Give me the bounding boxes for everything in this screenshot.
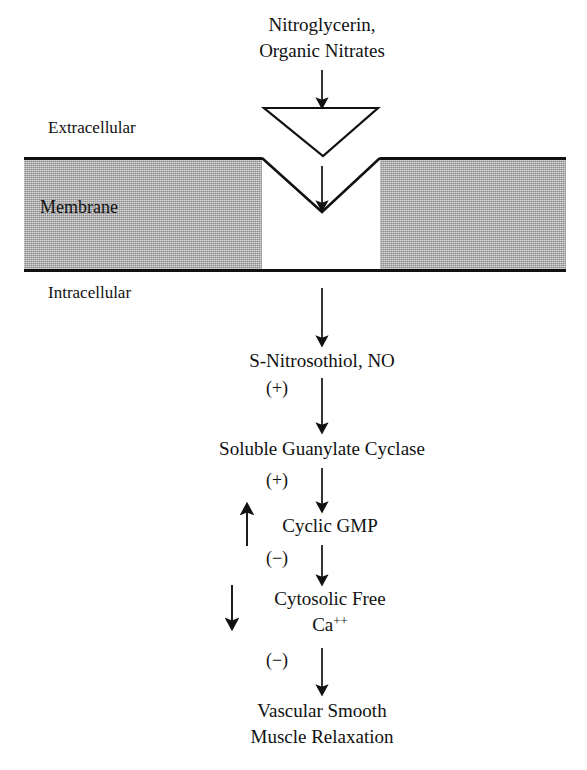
- sign-minus-1: (−): [266, 548, 288, 569]
- membrane-label: Membrane: [40, 197, 118, 218]
- extracellular-label: Extracellular: [48, 118, 136, 138]
- thiol-group-right-label: SH: [349, 201, 371, 221]
- step-guanylate-cyclase-label: Soluble Guanylate Cyclase: [219, 438, 425, 460]
- thiol-group-left-label: SH: [272, 201, 294, 221]
- calcium-charge-superscript: ++: [333, 613, 348, 628]
- step-vascular-relaxation-line-2: Muscle Relaxation: [251, 726, 394, 748]
- nitroglycerin-mechanism-diagram: Nitroglycerin, Organic Nitrates Extracel…: [0, 0, 587, 770]
- step-nitrosothiol-label: S-Nitrosothiol, NO: [249, 350, 395, 372]
- sign-plus-2: (+): [266, 470, 288, 491]
- calcium-symbol: Ca: [312, 614, 333, 635]
- step-cyclic-gmp-label: Cyclic GMP: [282, 515, 378, 537]
- cysteine-label: Cysteine: [290, 234, 353, 255]
- sign-plus-1: (+): [266, 378, 288, 399]
- intracellular-label: Intracellular: [48, 283, 131, 303]
- step-cytosolic-calcium-label: Cytosolic Free: [274, 588, 385, 610]
- diagram-vector-layer: [0, 0, 587, 770]
- membrane-slab-right: [380, 157, 566, 272]
- diagram-title-line-2: Organic Nitrates: [259, 40, 385, 62]
- sign-minus-2: (−): [266, 650, 288, 671]
- step-cytosolic-calcium-formula: Ca++: [312, 613, 348, 637]
- step-vascular-relaxation-line-1: Vascular Smooth: [257, 700, 386, 722]
- nitrate-ligand-label: N: [317, 111, 330, 132]
- diagram-title-line-1: Nitroglycerin,: [268, 14, 375, 36]
